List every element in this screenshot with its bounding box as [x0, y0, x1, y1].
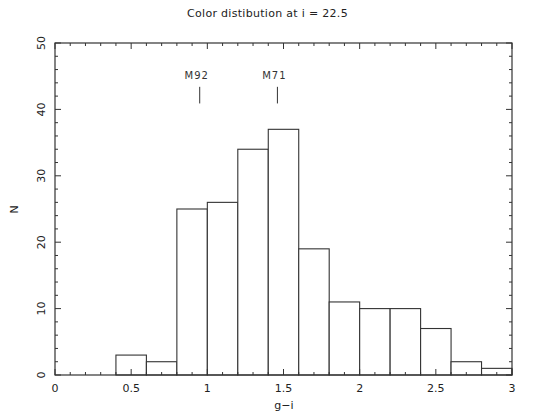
annotation-label: M92 — [185, 70, 209, 81]
y-tick-label: 20 — [35, 235, 48, 249]
histogram-bar — [360, 309, 390, 375]
y-tick-label: 50 — [35, 36, 48, 50]
histogram-plot: 00.511.522.5301020304050M92M71 — [0, 0, 535, 419]
histogram-bar — [299, 249, 329, 375]
histogram-bar — [390, 309, 420, 375]
histogram-bar — [421, 329, 451, 375]
histogram-bar — [177, 209, 207, 375]
histogram-bar — [329, 302, 359, 375]
histogram-bar — [207, 202, 237, 375]
y-tick-label: 40 — [35, 102, 48, 116]
y-tick-label: 0 — [35, 372, 48, 379]
x-tick-label: 0.5 — [122, 382, 140, 395]
histogram-bar — [238, 149, 268, 375]
y-tick-label: 10 — [35, 302, 48, 316]
annotation-label: M71 — [262, 70, 286, 81]
x-tick-label: 2.5 — [427, 382, 445, 395]
y-tick-label: 30 — [35, 169, 48, 183]
x-tick-label: 1 — [204, 382, 211, 395]
x-tick-label: 3 — [509, 382, 516, 395]
x-tick-label: 0 — [52, 382, 59, 395]
histogram-bar — [268, 129, 298, 375]
x-tick-label: 1.5 — [275, 382, 293, 395]
y-axis-label: N — [8, 205, 21, 213]
x-axis-label: g−i — [0, 399, 535, 412]
x-tick-label: 2 — [356, 382, 363, 395]
